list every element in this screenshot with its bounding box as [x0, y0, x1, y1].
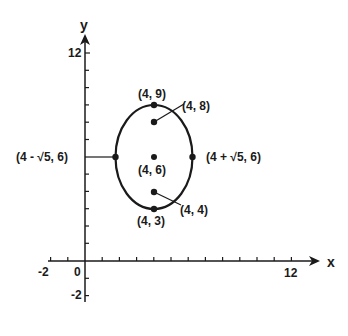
top-vertex-point [151, 102, 157, 108]
x-tick-label-0: 0 [74, 265, 81, 279]
y-tick-label-neg2: -2 [71, 288, 82, 302]
bottom-vertex-point [151, 206, 157, 212]
focus-top-point [151, 119, 157, 125]
y-tick-label-12: 12 [68, 46, 82, 60]
label-focus-top: (4, 8) [182, 99, 210, 113]
label-focus-bottom: (4, 4) [180, 203, 208, 217]
focus-bottom-point [151, 189, 157, 195]
right-covertex-point [189, 154, 195, 160]
label-bottom-vertex: (4, 3) [137, 214, 165, 228]
y-axis-label: y [80, 17, 88, 33]
x-axis [48, 256, 320, 266]
label-top-vertex: (4, 9) [138, 87, 166, 101]
label-right-covertex: (4 + √5, 6) [206, 150, 261, 164]
y-axis [80, 34, 90, 302]
x-tick-label-12: 12 [284, 266, 298, 280]
x-tick-label-neg2: -2 [38, 265, 49, 279]
ellipse-diagram: x y -2 0 12 12 -2 (4, 9) (4, 8) (4, 6) (… [0, 0, 348, 336]
label-center: (4, 6) [138, 163, 166, 177]
x-axis-label: x [327, 254, 335, 270]
center-point [151, 154, 157, 160]
left-covertex-point [112, 154, 118, 160]
label-left-covertex: (4 - √5, 6) [16, 150, 68, 164]
